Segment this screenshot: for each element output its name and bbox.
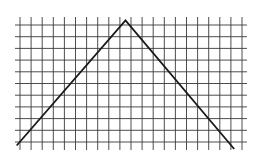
grid-diagram [0, 0, 259, 161]
